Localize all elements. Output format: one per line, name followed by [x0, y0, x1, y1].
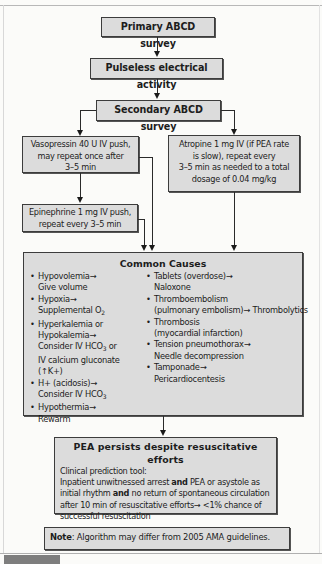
page-left-rule: [3, 5, 4, 553]
page-right-rule: [319, 5, 320, 553]
cause-item-hyperkalemia: • Hyperkalemia or Hypokalemia→ Consider …: [30, 319, 142, 378]
bullet-icon: •: [146, 362, 151, 373]
causes-right-column: • Tablets (overdose)→ Naloxone • Thrombo…: [142, 271, 296, 425]
atropine-box: Atropine 1 mg IV (if PEA rate is slow), …: [168, 135, 300, 192]
page-corner-tab: [4, 555, 60, 564]
pea-persists-box: PEA persists despite resuscitative effor…: [54, 437, 277, 514]
note-label: Note: [50, 532, 72, 542]
cause-item-hypoxia: • Hypoxia→ Supplemental O2: [30, 294, 142, 319]
cause-item-tamponade: • Tamponade→ Pericardiocentesis: [146, 362, 296, 385]
cause-treatment: Rewarm: [38, 414, 142, 425]
bullet-icon: •: [30, 294, 35, 305]
connector-vasopressin-causes-v: [152, 157, 153, 246]
cause-text: Thrombosis: [154, 317, 296, 328]
common-causes-title: Common Causes: [24, 257, 302, 270]
connector-secondary-right-h: [221, 110, 235, 111]
cause-treatment-text: Consider IV HCO: [38, 341, 103, 351]
connector-causes-pea: [163, 416, 164, 431]
subscript: 3: [103, 393, 107, 400]
cause-item-acidosis: • H+ (acidosis)→ Consider IV HCO3: [30, 378, 142, 403]
cause-text: Tamponade→: [154, 362, 296, 373]
cause-treatment: IV calcium gluconate (↑K+): [38, 355, 142, 378]
secondary-survey-label: Secondary ABCD survey: [114, 104, 203, 132]
common-causes-box: Common Causes • Hypovolemia→ Give volume…: [23, 252, 303, 416]
cause-detail: (myocardial infarction): [154, 328, 296, 339]
secondary-survey-box: Secondary ABCD survey: [96, 100, 221, 121]
pea-persists-title: PEA persists despite resuscitative effor…: [55, 440, 276, 466]
cause-text: Tablets (overdose)→: [154, 271, 296, 282]
prediction-and: and: [171, 477, 187, 487]
cause-text: Tension pneumothorax→: [154, 339, 296, 350]
arrowhead-icon: [141, 245, 147, 251]
cause-treatment: Naloxone: [154, 282, 296, 293]
cause-treatment: Supplemental O2: [38, 305, 142, 318]
connector-pulseless-secondary: [157, 79, 158, 94]
bullet-icon: •: [146, 339, 151, 350]
connector-atropine-causes: [234, 192, 235, 246]
cause-treatment-text: or: [106, 341, 116, 351]
cause-item-hypovolemia: • Hypovolemia→ Give volume: [30, 271, 142, 294]
cause-treatment: Consider IV HCO3: [38, 389, 142, 402]
cause-treatment: Needle decompression: [154, 351, 296, 362]
arrowhead-icon: [231, 245, 237, 251]
note-text: : Algorithm may differ from 2005 AMA gui…: [72, 532, 270, 542]
clinical-prediction-label: Clinical prediction tool:: [60, 466, 271, 477]
page-top-rule: [0, 5, 322, 6]
arrowhead-icon: [77, 197, 83, 203]
cause-treatment-text: Supplemental O: [38, 305, 101, 315]
connector-vasopressin-causes-h: [139, 157, 153, 158]
primary-survey-box: Primary ABCD survey: [101, 17, 215, 37]
atropine-line-1: Atropine 1 mg IV (if PEA rate: [172, 139, 296, 151]
atropine-line-3: 3–5 min as needed to a total: [172, 162, 296, 174]
bullet-icon: •: [146, 271, 151, 282]
arrowhead-icon: [160, 430, 166, 436]
note-box: Note: Algorithm may differ from 2005 AMA…: [44, 527, 290, 550]
epinephrine-line-1: Epinephrine 1 mg IV push,: [26, 207, 134, 219]
connector-primary-pulseless: [157, 37, 158, 52]
connector-epinephrine-causes-v: [144, 219, 145, 246]
bullet-icon: •: [30, 402, 35, 413]
cause-treatment-text: Consider IV HCO: [38, 389, 103, 399]
epinephrine-line-2: repeat every 3–5 min: [26, 219, 134, 231]
cause-text: Hypokalemia→: [38, 330, 142, 341]
cause-treatment: Pericardiocentesis: [154, 374, 296, 385]
cause-text: Thromboembolism: [154, 294, 296, 305]
connector-vasopressin-epinephrine: [80, 173, 81, 198]
cause-text: Hypovolemia→: [38, 271, 142, 282]
cause-treatment: (pulmonary embolism)→ Thrombolytics: [154, 305, 296, 316]
cause-text: H+ (acidosis)→: [38, 378, 142, 389]
bullet-icon: •: [146, 294, 151, 305]
cause-item-tablets: • Tablets (overdose)→ Naloxone: [146, 271, 296, 294]
bullet-icon: •: [146, 317, 151, 328]
arrowhead-icon: [154, 51, 160, 57]
epinephrine-box: Epinephrine 1 mg IV push, repeat every 3…: [22, 204, 138, 232]
cause-item-tension-pneumothorax: • Tension pneumothorax→ Needle decompres…: [146, 339, 296, 362]
bullet-icon: •: [30, 319, 35, 330]
atropine-line-2: is slow), repeat every: [172, 151, 296, 163]
connector-secondary-left-v: [80, 110, 81, 131]
vasopressin-box: Vasopressin 40 U IV push, may repeat onc…: [22, 136, 139, 173]
vasopressin-line-1: Vasopressin 40 U IV push,: [26, 139, 135, 151]
causes-left-column: • Hypovolemia→ Give volume • Hypoxia→ Su…: [30, 271, 142, 425]
connector-secondary-left-h: [80, 110, 96, 111]
connector-secondary-right-v: [234, 110, 235, 130]
pulseless-activity-box: Pulseless electrical activity: [90, 58, 223, 79]
prediction-and: and: [113, 488, 129, 498]
cause-text: Hypothermia→: [38, 402, 142, 413]
arrowhead-icon: [154, 93, 160, 99]
subscript: 2: [101, 309, 105, 316]
cause-item-thromboembolism: • Thromboembolism (pulmonary embolism)→ …: [146, 294, 296, 317]
vasopressin-line-3: 3–5 min: [26, 162, 135, 174]
cause-treatment: Consider IV HCO3 or: [38, 341, 142, 354]
clinical-prediction-text: Inpatient unwitnessed arrest and PEA or …: [60, 477, 271, 522]
cause-treatment: Give volume: [38, 282, 142, 293]
page-bottom-rule: [0, 553, 322, 554]
cause-item-thrombosis: • Thrombosis (myocardial infarction): [146, 317, 296, 340]
cause-text: Hyperkalemia or: [38, 319, 142, 330]
pea-persists-body: Clinical prediction tool: Inpatient unwi…: [55, 466, 276, 522]
cause-item-hypothermia: • Hypothermia→ Rewarm: [30, 402, 142, 425]
cause-text: Hypoxia→: [38, 294, 142, 305]
vasopressin-line-2: may repeat once after: [26, 151, 135, 163]
bullet-icon: •: [30, 378, 35, 389]
arrowhead-icon: [149, 245, 155, 251]
